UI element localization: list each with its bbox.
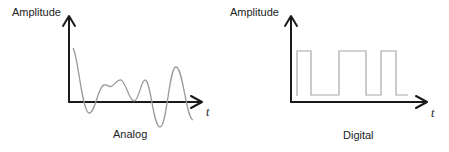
analog-signal-wave: [73, 48, 193, 127]
analog-axes: [63, 16, 202, 108]
digital-signal-square-wave: [297, 51, 408, 96]
diagram-graphics: [0, 0, 449, 152]
digital-axes: [285, 16, 427, 108]
